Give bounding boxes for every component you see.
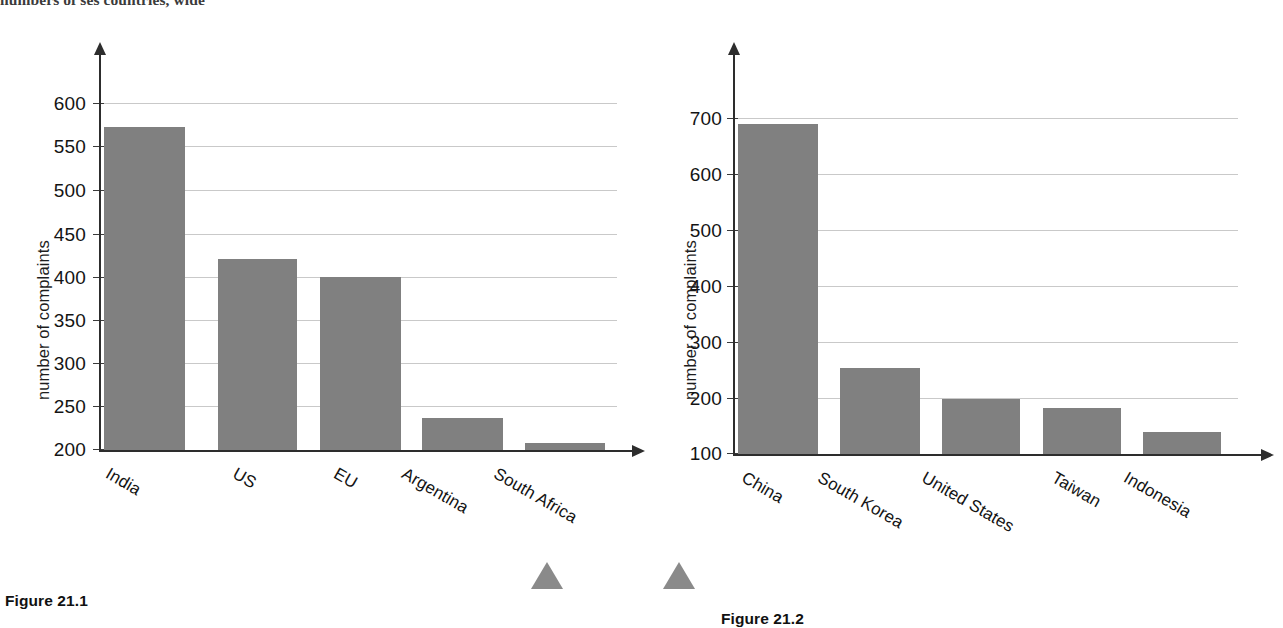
bar-eu — [320, 277, 401, 450]
x-axis-line-left — [99, 450, 634, 452]
y-tick-label: 400 — [24, 268, 86, 287]
x-axis-arrow-icon — [1261, 449, 1274, 461]
y-tick-label: 450 — [24, 225, 86, 244]
figure-21-2: number of complaints 700 600 500 400 300… — [660, 0, 1283, 625]
y-tick-label: 100 — [660, 444, 722, 463]
bar-united-states — [942, 399, 1020, 454]
figure-caption-left: Figure 21.1 — [5, 592, 88, 610]
x-category-label-us: US — [229, 464, 260, 493]
x-category-label-china: China — [738, 468, 787, 508]
x-category-label-south-africa: South Africa — [490, 464, 580, 528]
y-tick-label: 350 — [24, 311, 86, 330]
x-category-label-south-korea: South Korea — [814, 468, 907, 533]
y-tick-label: 200 — [660, 389, 722, 408]
y-tick-label: 200 — [24, 440, 86, 459]
figure-caption-right: Figure 21.2 — [721, 610, 804, 628]
y-tick-label: 700 — [660, 109, 722, 128]
bar-south-africa — [525, 443, 605, 450]
y-axis-title-right: number of complaints — [681, 240, 700, 400]
y-tick-label: 550 — [24, 137, 86, 156]
y-tick-label: 600 — [660, 165, 722, 184]
y-tick-label: 300 — [660, 333, 722, 352]
y-axis-arrow-icon — [94, 42, 106, 55]
y-tick-label: 400 — [660, 277, 722, 296]
y-tick-label: 500 — [660, 221, 722, 240]
x-category-label-united-states: United States — [918, 468, 1018, 537]
y-axis-arrow-icon — [728, 42, 740, 55]
bar-china — [738, 124, 818, 454]
triangle-marker-icon-right — [663, 562, 695, 589]
y-axis-line-right — [733, 53, 735, 456]
y-tick-label: 300 — [24, 354, 86, 373]
bar-taiwan — [1043, 408, 1121, 454]
x-axis-line-right — [733, 454, 1263, 456]
gridline — [735, 118, 1238, 119]
figure-21-1: number of complaints 600 550 500 450 400… — [0, 0, 660, 625]
bar-argentina — [422, 418, 503, 450]
triangle-marker-icon-left — [531, 562, 563, 589]
bar-indonesia — [1143, 432, 1221, 454]
x-category-label-argentina: Argentina — [398, 464, 472, 518]
bar-india — [104, 127, 185, 450]
gridline — [101, 103, 617, 104]
bar-south-korea — [840, 368, 920, 454]
bar-us — [218, 259, 297, 450]
x-category-label-indonesia: Indonesia — [1120, 468, 1195, 523]
y-axis-line-left — [99, 53, 101, 452]
x-axis-arrow-icon — [632, 445, 645, 457]
y-tick-label: 600 — [24, 94, 86, 113]
x-category-label-eu: EU — [330, 464, 361, 493]
y-tick-label: 500 — [24, 181, 86, 200]
x-category-label-taiwan: Taiwan — [1048, 468, 1104, 512]
y-tick-label: 250 — [24, 397, 86, 416]
x-category-label-india: India — [102, 464, 144, 500]
